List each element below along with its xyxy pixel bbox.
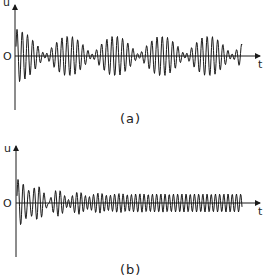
panel-a-caption: (a) — [120, 112, 141, 125]
panel-a-signal — [16, 29, 242, 81]
panel-a-x-label: t — [258, 59, 262, 70]
panel-a-origin-label: O — [3, 51, 12, 62]
panel-b-caption: (b) — [120, 263, 141, 276]
figure-canvas — [0, 0, 267, 279]
panel-b-origin-label: O — [3, 198, 12, 209]
panel-a-axes — [15, 5, 260, 110]
panel-b-x-label: t — [258, 206, 262, 217]
panel-a-y-label: u — [3, 0, 10, 8]
panel-b-signal — [17, 180, 242, 225]
panel-b-y-label: u — [4, 143, 11, 154]
